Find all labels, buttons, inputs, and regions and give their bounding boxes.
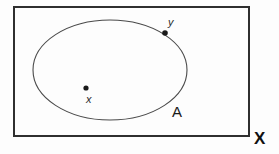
interior-point-dot <box>83 85 88 90</box>
set-diagram: y x A X <box>0 0 279 154</box>
interior-point-label: x <box>86 94 92 105</box>
universe-label: X <box>254 130 265 147</box>
universe-rectangle <box>14 7 249 136</box>
boundary-point-dot <box>162 30 168 36</box>
subset-label: A <box>172 104 182 119</box>
diagram-svg <box>0 0 279 154</box>
boundary-point-label: y <box>168 17 174 28</box>
